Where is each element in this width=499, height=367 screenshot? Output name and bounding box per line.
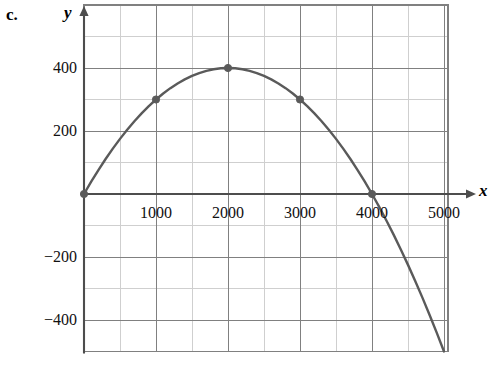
y-tick-label: 200 [53, 123, 77, 139]
minor-gridlines [84, 5, 448, 352]
x-axis-label: x [479, 182, 488, 199]
figure-container: c. y x 10002000300040005000 400200−200−4… [0, 0, 499, 367]
x-tick-label: 4000 [356, 205, 388, 221]
x-tick-label: 3000 [284, 205, 316, 221]
y-axis-label: y [64, 4, 72, 21]
plot-frame [84, 5, 448, 352]
y-tick-label: −400 [44, 312, 77, 328]
x-tick-label: 1000 [140, 205, 172, 221]
axes [79, 6, 476, 354]
major-gridlines [84, 5, 448, 352]
part-label: c. [6, 6, 18, 23]
y-tick-label: −200 [44, 249, 77, 265]
x-tick-label: 5000 [428, 205, 460, 221]
x-tick-label: 2000 [212, 205, 244, 221]
y-tick-label: 400 [53, 60, 77, 76]
